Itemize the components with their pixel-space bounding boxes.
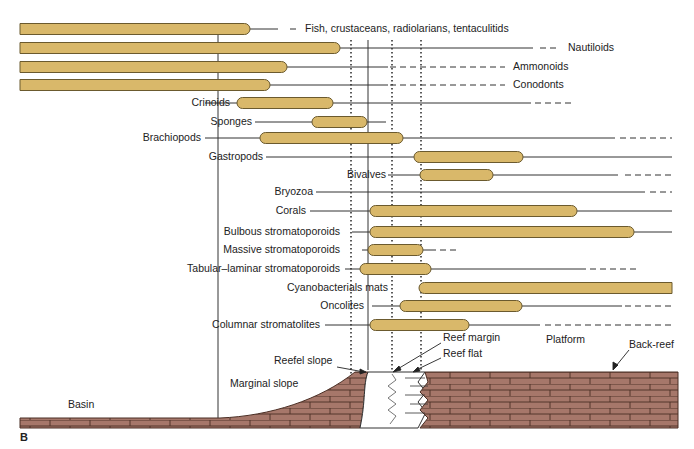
taxon-range: [255, 117, 386, 128]
taxon-range: [20, 62, 505, 73]
taxon-label: Fish, crustaceans, radiolarians, tentacu…: [305, 22, 509, 34]
taxon-range: [372, 301, 672, 312]
taxon-label: Tabular–laminar stromatoporoids: [187, 262, 340, 274]
taxon-range: [362, 245, 456, 256]
range-bar: [420, 170, 493, 181]
taxon-label: Columnar stromatolites: [212, 318, 320, 330]
arrow-reef-flat: [416, 358, 441, 370]
taxon-range: [205, 133, 672, 144]
range-bar: [20, 80, 270, 91]
taxon-range: [388, 170, 672, 181]
arrow-back-reef: [616, 350, 629, 366]
taxon-label: Cyanobacterials mats: [287, 281, 388, 293]
range-bar: [419, 283, 672, 294]
taxon-label: Ammonoids: [513, 60, 568, 72]
taxon-range: [205, 98, 575, 109]
taxon-label: Bryozoa: [274, 185, 313, 197]
range-bar: [20, 62, 287, 73]
taxon-range: [266, 152, 672, 163]
taxon-label: Massive stromatoporoids: [223, 243, 340, 255]
taxon-label: Oncolites: [320, 299, 364, 311]
range-bar: [368, 245, 423, 256]
taxon-label: Gastropods: [209, 150, 263, 162]
zone-label: Reefel slope: [274, 354, 332, 366]
range-bar: [20, 24, 250, 35]
pointer-arrows: [337, 343, 629, 374]
range-bar: [414, 152, 523, 163]
zone-label: Back-reef: [629, 338, 674, 350]
range-bar: [400, 301, 522, 312]
taxon-range: [310, 206, 672, 217]
zone-label: Reef margin: [443, 331, 500, 343]
dotted-zone-lines: [351, 40, 421, 395]
taxon-range: [20, 43, 560, 54]
taxon-label: Bulbous stromatoporoids: [224, 225, 340, 237]
taxon-label: Corals: [276, 204, 306, 216]
range-bar: [20, 43, 340, 54]
zone-label: Marginal slope: [230, 377, 298, 389]
range-bar: [237, 98, 333, 109]
taxon-label: Bivalves: [347, 168, 386, 180]
panel-label: B: [20, 431, 28, 443]
range-bar: [260, 133, 403, 144]
cross-section: [20, 343, 678, 428]
taxon-label: Sponges: [211, 115, 252, 127]
zone-label: Platform: [546, 333, 585, 345]
taxon-label: Conodonts: [513, 78, 564, 90]
taxon-label: Brachiopods: [143, 131, 201, 143]
taxon-range: [325, 320, 672, 331]
diagram-canvas: [0, 0, 694, 449]
reef-facies-diagram: Fish, crustaceans, radiolarians, tentacu…: [0, 0, 694, 449]
range-bar: [360, 264, 431, 275]
taxon-label: Nautiloids: [568, 41, 614, 53]
taxon-range: [352, 227, 672, 238]
zone-label: Reef flat: [443, 347, 482, 359]
range-bar: [312, 117, 367, 128]
taxon-range: [419, 283, 672, 294]
taxon-range: [20, 80, 505, 91]
zone-label: Basin: [68, 398, 94, 410]
taxon-range: [20, 24, 300, 35]
taxon-label: Crinoids: [191, 96, 230, 108]
range-bar: [370, 320, 469, 331]
arrow-reef-margin: [396, 343, 441, 370]
range-bar: [370, 206, 577, 217]
platform-strata: [420, 372, 678, 428]
taxon-range: [345, 264, 638, 275]
range-bar: [370, 227, 634, 238]
